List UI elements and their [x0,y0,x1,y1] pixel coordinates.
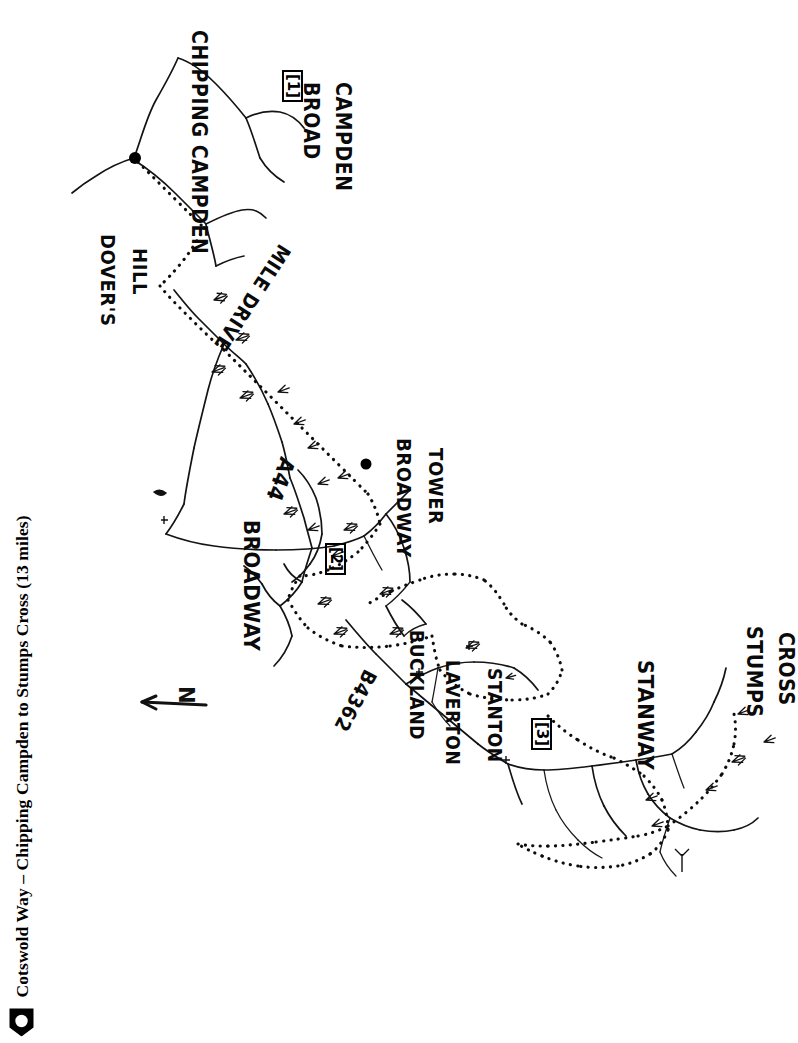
dot-chipping-campden [129,152,141,164]
map-label-broadway: BROADWAY [240,520,262,652]
map-label-stanton: STANTON [485,668,504,763]
map-label-dovers-hill-line2: HILL [130,248,150,295]
map-label-laverton: LAVERTON [443,660,462,765]
dot-broadway-tower [361,459,372,470]
title-row: Cotswold Way – Chipping Campden to Stump… [0,0,45,1043]
map-label-chipping-campden: CHIPPING CAMPDEN [188,30,209,254]
map-label-stanway: STANWAY [634,660,656,771]
title-strip: Cotswold Way – Chipping Campden to Stump… [0,0,46,1043]
left-arrow-bullet-icon [8,1007,36,1037]
north-label: N [174,686,198,704]
map-label-buckland: BUCKLAND [407,630,426,740]
waypoint-marker-3[interactable]: [3] [531,718,552,750]
map-label-broadway-tower-line2: TOWER [426,448,446,525]
map-label-stumps-cross-line1: STUMPS [743,626,764,718]
map-label-broad-campden-line2: CAMPDEN [332,82,353,192]
map-label-stumps-cross-line2: CROSS [775,632,796,706]
map-label-broadway-tower-line1: BROADWAY [394,438,414,558]
map-label-dovers-hill-line1: DOVER'S [98,234,118,326]
map-drawing: .road{fill:none;stroke:#141414;stroke-wi… [46,0,794,1043]
waypoint-marker-2[interactable]: [2] [325,543,346,575]
map-canvas: .road{fill:none;stroke:#141414;stroke-wi… [46,0,794,1043]
waypoint-marker-1[interactable]: [1] [282,70,303,102]
page-title: Cotswold Way – Chipping Campden to Stump… [11,515,32,997]
